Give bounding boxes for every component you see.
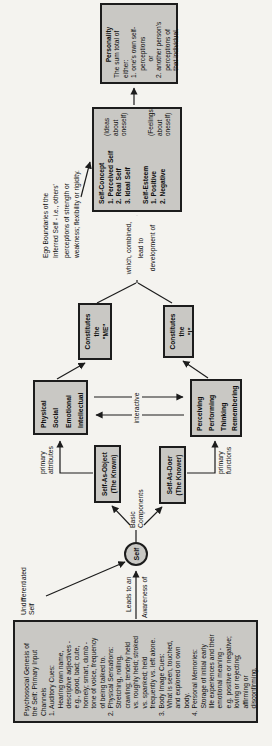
ego-boundaries-note: Ego Boundaries of theInferred Self - i.e… xyxy=(41,170,82,258)
basic-components-label: BasicComponents xyxy=(129,489,146,528)
primary-attributes-label: primaryattributes xyxy=(39,446,55,474)
feelings-about-oneself-note: (Feelingsaboutoneself) xyxy=(147,109,173,136)
constitutes-the-i-node: Constitutesthe"I" xyxy=(163,305,194,358)
interactive-label: interactive xyxy=(132,387,142,429)
self-circle-node: Self xyxy=(124,542,148,566)
rotated-scan-page: Psychosocial Genesis ofthe Self: Primary… xyxy=(0,0,272,746)
ideas-about-oneself-note: (Ideasaboutoneself) xyxy=(103,113,129,136)
self-as-doer-node: Self-As-Doer(The Knower) xyxy=(159,446,186,504)
undifferentiated-self-label: UndifferentiatedSelf xyxy=(20,567,37,615)
psychosocial-genesis-panel: Psychosocial Genesis ofthe Self: Primary… xyxy=(13,620,258,723)
self-as-object-node: Self-As-Object(The Known) xyxy=(94,445,121,503)
personality-node: PersonalityThe sum total ofeither:1. one… xyxy=(100,3,178,84)
leads-to-an-label: Leads to an xyxy=(125,576,133,612)
primary-functions-label: primaryfunctions xyxy=(217,447,233,474)
figure-canvas: Psychosocial Genesis ofthe Self: Primary… xyxy=(0,0,272,746)
which-combined-label: which, combined,lead todevelopment of xyxy=(123,216,159,280)
self-concept-list: Self-Concept1. Perceived Self2. Real Sel… xyxy=(98,151,168,204)
self-concept-self-esteem-node: Self-Concept1. Perceived Self2. Real Sel… xyxy=(92,107,182,212)
physical-social-emotional-intellectual-node: PhysicalSocialEmotionalIntellectual xyxy=(33,380,88,435)
perceiving-performing-thinking-remembering-node: PerceivingPerformingThinkingRemembering xyxy=(190,379,242,437)
constitutes-the-me-node: Constitutesthe"ME" xyxy=(78,303,112,360)
awareness-of-label: Awareness of xyxy=(141,577,149,618)
